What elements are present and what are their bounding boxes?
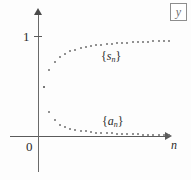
data-point — [132, 133, 134, 135]
data-point — [90, 45, 92, 47]
brace-close: } — [115, 49, 121, 63]
brace-close: } — [118, 114, 124, 128]
data-point — [90, 131, 92, 133]
data-point — [111, 132, 113, 134]
data-point — [64, 126, 66, 128]
x-axis-label: n — [171, 139, 177, 151]
y-axis-tick-one — [34, 36, 42, 37]
series-label-terms: {an} — [102, 115, 124, 129]
data-point — [111, 43, 113, 45]
data-point — [48, 69, 50, 71]
data-point — [43, 86, 45, 88]
data-point — [126, 133, 128, 135]
data-point — [147, 134, 149, 136]
data-point — [158, 134, 160, 136]
data-point — [100, 132, 102, 134]
data-point — [126, 42, 128, 44]
data-point — [100, 44, 102, 46]
data-point — [74, 129, 76, 131]
data-point — [80, 130, 82, 132]
data-point — [168, 134, 170, 136]
data-point — [163, 40, 165, 42]
data-point — [85, 46, 87, 48]
y-tick-label-one: 1 — [23, 30, 30, 43]
x-axis-line — [10, 136, 167, 137]
data-point — [64, 53, 66, 55]
data-point — [59, 124, 61, 126]
data-point — [48, 111, 50, 113]
data-point — [158, 40, 160, 42]
data-point — [69, 50, 71, 52]
data-point — [116, 133, 118, 135]
data-point — [116, 42, 118, 44]
data-point — [54, 61, 56, 63]
data-point — [59, 56, 61, 58]
data-point — [85, 130, 87, 132]
data-point — [121, 133, 123, 135]
sequence-convergence-figure: 1 0 n {sn} {an} y — [0, 0, 191, 180]
y-axis-line — [38, 14, 39, 172]
data-point — [132, 41, 134, 43]
data-point — [121, 42, 123, 44]
data-point — [95, 44, 97, 46]
data-point — [137, 41, 139, 43]
origin-label: 0 — [26, 140, 33, 153]
data-point — [163, 134, 165, 136]
boxed-y-marker: y — [170, 3, 187, 21]
series-label-partial-sums: {sn} — [101, 50, 121, 64]
data-point — [54, 119, 56, 121]
data-point — [142, 134, 144, 136]
data-point — [152, 40, 154, 42]
data-point — [147, 41, 149, 43]
boxed-y-label: y — [176, 6, 181, 18]
data-point — [168, 40, 170, 42]
data-point — [69, 128, 71, 130]
data-point — [106, 43, 108, 45]
data-point — [74, 49, 76, 51]
data-point — [106, 132, 108, 134]
data-point — [142, 41, 144, 43]
y-axis-arrow-icon — [34, 8, 42, 15]
data-point — [95, 132, 97, 134]
data-point — [80, 47, 82, 49]
